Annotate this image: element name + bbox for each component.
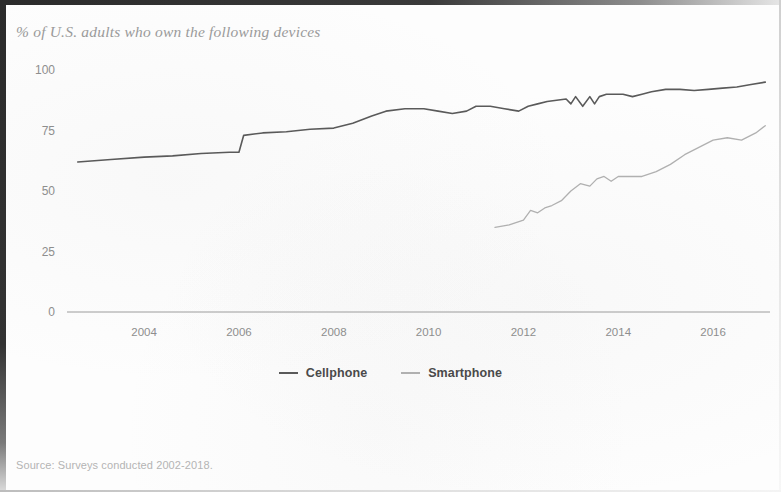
x-tick-label-2008: 2008 (321, 326, 347, 338)
x-tick-label-2012: 2012 (511, 326, 537, 338)
y-tick-label-0: 0 (48, 305, 55, 319)
chart-figure: % of U.S. adults who own the following d… (0, 0, 781, 492)
x-tick-label-2010: 2010 (416, 326, 442, 338)
x-tick-label-2006: 2006 (226, 326, 252, 338)
x-tick-label-2004: 2004 (131, 326, 157, 338)
legend-swatch-smartphone (401, 372, 420, 374)
x-axis-tick-labels: 2004200620082010201220142016 (131, 326, 726, 338)
series-line-smartphone (495, 126, 765, 228)
chart-plot-area: 0255075100 2004200620082010201220142016 (0, 0, 781, 492)
legend-label-smartphone: Smartphone (428, 366, 502, 380)
series-line-cellphone (78, 82, 766, 162)
y-axis-tick-labels: 0255075100 (35, 63, 55, 319)
legend-item-smartphone[interactable]: Smartphone (401, 366, 502, 380)
y-tick-label-75: 75 (42, 124, 56, 138)
x-tick-label-2014: 2014 (605, 326, 631, 338)
chart-legend: CellphoneSmartphone (0, 366, 781, 380)
y-tick-label-25: 25 (42, 245, 56, 259)
data-series-group (78, 82, 766, 227)
y-tick-label-50: 50 (42, 184, 56, 198)
y-tick-label-100: 100 (35, 63, 55, 77)
legend-label-cellphone: Cellphone (306, 366, 367, 380)
legend-swatch-cellphone (279, 372, 298, 374)
x-tick-label-2016: 2016 (700, 326, 726, 338)
source-note: Source: Surveys conducted 2002-2018. (16, 459, 213, 471)
legend-item-cellphone[interactable]: Cellphone (279, 366, 367, 380)
